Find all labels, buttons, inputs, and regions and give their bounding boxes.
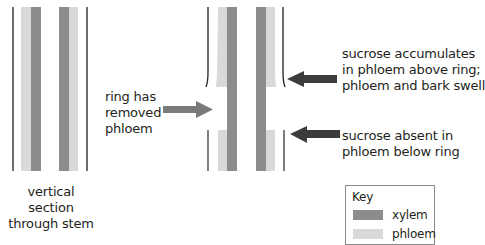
below-ring-annotation: sucrose absent in phloem below ring: [342, 128, 459, 160]
swollen-bark-outline-left: [206, 7, 208, 87]
annotation-line: sucrose absent in: [342, 128, 459, 144]
phloem-band: [21, 7, 31, 171]
xylem-band: [227, 7, 237, 171]
xylem-band: [59, 7, 69, 171]
above-ring-arrow-icon: [287, 71, 337, 87]
annotation-line: phloem below ring: [342, 144, 459, 160]
phloem-below-ring: [218, 130, 227, 171]
ringed-stem: [206, 7, 285, 171]
xylem-band: [256, 7, 266, 171]
above-ring-annotation: sucrose accumulates in phloem above ring…: [342, 46, 485, 94]
xylem-swatch: [353, 210, 383, 220]
annotation-line: in phloem above ring;: [342, 62, 485, 78]
ring-label-line: phloem: [105, 121, 161, 137]
caption-line: vertical section: [3, 184, 99, 216]
phloem-below-ring: [266, 130, 275, 171]
phloem-above-ring: [266, 7, 276, 87]
key-legend: Key xylem phloem: [345, 185, 435, 245]
ring-label: ring has removed phloem: [105, 89, 161, 137]
ring-label-line: ring has: [105, 89, 161, 105]
swollen-bark-outline-right: [283, 7, 285, 87]
caption-line: through stem: [3, 216, 99, 232]
key-title: Key: [352, 189, 373, 205]
ring-label-line: removed: [105, 105, 161, 121]
phloem-swatch: [353, 229, 383, 239]
phloem-above-ring: [216, 7, 227, 87]
phloem-band: [69, 7, 78, 171]
key-label-phloem: phloem: [392, 226, 436, 242]
annotation-line: phloem and bark swell: [342, 78, 485, 94]
below-ring-arrow-icon: [290, 126, 340, 143]
key-label-xylem: xylem: [392, 207, 428, 223]
intact-stem-caption: vertical section through stem: [3, 184, 99, 232]
annotation-line: sucrose accumulates: [342, 46, 485, 62]
intact-stem: [13, 7, 87, 171]
xylem-band: [31, 7, 41, 171]
ring-arrow-icon: [163, 101, 213, 118]
